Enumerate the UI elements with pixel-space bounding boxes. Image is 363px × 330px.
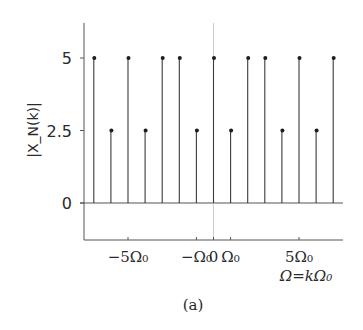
- stem-marker: [92, 56, 96, 60]
- x-ticks: −5Ω₀−Ω₀0Ω₀5Ω₀: [108, 237, 313, 266]
- stem-marker: [127, 56, 131, 60]
- stem-marker: [246, 56, 250, 60]
- stem: [178, 56, 182, 203]
- y-tick-label: 5: [62, 49, 72, 68]
- y-ticks: 02.55: [47, 49, 84, 213]
- stem: [229, 129, 233, 204]
- stem: [144, 129, 148, 204]
- y-axis-label: |X_N(k)|: [25, 102, 42, 158]
- x-tick-label: 0: [209, 248, 219, 266]
- y-tick-label: 2.5: [47, 122, 72, 141]
- stem-marker: [298, 56, 302, 60]
- chart-canvas: 02.55 −5Ω₀−Ω₀0Ω₀5Ω₀ |X_N(k)| Ω=kΩ₀ (a): [0, 0, 363, 330]
- stem-chart: 02.55 −5Ω₀−Ω₀0Ω₀5Ω₀ |X_N(k)| Ω=kΩ₀ (a): [0, 0, 363, 330]
- stem: [195, 129, 199, 204]
- x-axis-label: Ω=kΩ₀: [279, 267, 333, 285]
- x-tick-label: Ω₀: [221, 248, 239, 266]
- stem-marker: [332, 56, 336, 60]
- stem-marker: [161, 56, 165, 60]
- stem: [263, 56, 267, 203]
- stem: [280, 129, 284, 204]
- stem-marker: [315, 129, 319, 133]
- stem-marker: [263, 56, 267, 60]
- stem: [161, 56, 165, 203]
- x-tick-label: −Ω₀: [181, 248, 212, 266]
- stem-marker: [195, 129, 199, 133]
- stem: [332, 56, 336, 203]
- stem-marker: [212, 56, 216, 60]
- stem-marker: [109, 129, 113, 133]
- stem: [246, 56, 250, 203]
- y-tick-label: 0: [62, 194, 72, 213]
- stem: [109, 129, 113, 204]
- stem-marker: [178, 56, 182, 60]
- stems: [92, 56, 335, 203]
- stem: [212, 56, 216, 203]
- x-tick-label: 5Ω₀: [285, 248, 313, 266]
- x-tick-label: −5Ω₀: [108, 248, 149, 266]
- stem: [298, 56, 302, 203]
- stem-marker: [229, 129, 233, 133]
- axes: [80, 23, 343, 240]
- stem-marker: [280, 129, 284, 133]
- stem-marker: [144, 129, 148, 133]
- stem: [315, 129, 319, 204]
- stem: [127, 56, 131, 203]
- stem: [92, 56, 96, 203]
- figure-caption: (a): [183, 296, 204, 314]
